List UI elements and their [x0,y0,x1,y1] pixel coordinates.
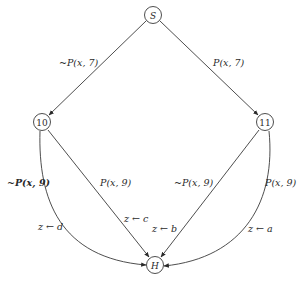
assign-z-a: z ← a [248,224,273,234]
svg-text:S: S [150,11,156,21]
node-s: S [145,7,162,24]
assign-z-c: z ← c [124,214,148,224]
label-10-straight: P(x, 9) [100,178,131,188]
assign-z-d: z ← d [38,222,63,232]
edge-s-to-11 [160,21,258,115]
label-11-curved: P(x, 9) [265,178,296,188]
edge-11-to-h-straight [161,130,259,257]
edge-11-to-h-curved [164,131,270,266]
svg-text:10: 10 [36,118,48,128]
node-h: H [147,257,164,274]
label-s-to-10: ~P(x, 7) [59,58,98,68]
svg-text:11: 11 [259,118,270,128]
label-11-straight: ~P(x, 9) [174,178,213,188]
svg-text:H: H [150,261,159,271]
edge-10-to-h-curved [40,131,146,265]
assign-z-b: z ← b [152,224,177,234]
edge-10-to-h-straight [48,130,149,257]
label-s-to-11: P(x, 7) [213,58,244,68]
label-10-curved: ~P(x, 9) [7,178,50,188]
edge-s-to-10 [49,21,146,115]
node-10: 10 [34,114,51,131]
node-11: 11 [257,114,274,131]
flow-diagram: S 10 11 H [0,0,300,284]
